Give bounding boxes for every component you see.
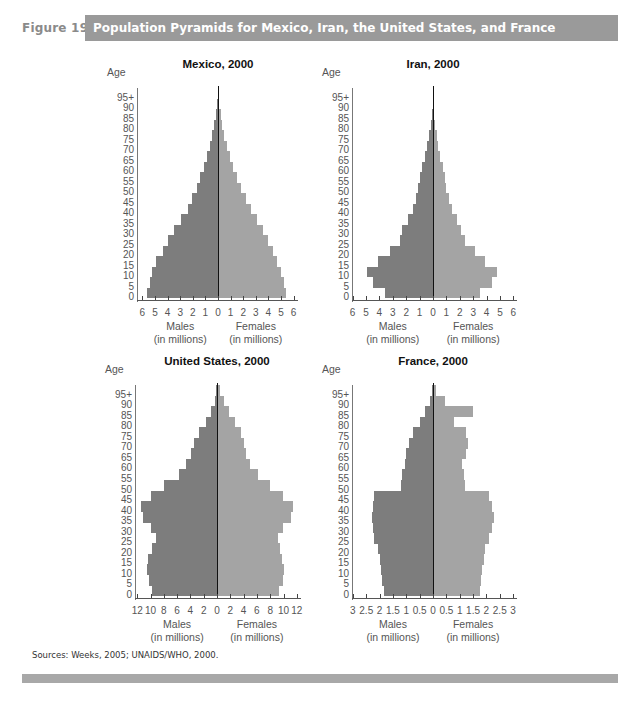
- age-axis-label: Age: [107, 66, 126, 78]
- female-bar: [218, 256, 277, 267]
- age-tick-label: 85: [321, 114, 349, 124]
- female-bar: [433, 543, 485, 554]
- age-tick-label: 80: [104, 421, 132, 431]
- x-tick-mark: [433, 296, 434, 300]
- x-tick-label: 3: [390, 307, 396, 318]
- females-axis-label: Females(in millions): [230, 618, 283, 644]
- female-bar: [217, 459, 250, 470]
- x-axis-line: [137, 300, 298, 301]
- x-tick-label: 0: [430, 307, 436, 318]
- male-bar: [156, 533, 217, 544]
- male-bar: [367, 267, 433, 278]
- male-bar: [148, 554, 217, 565]
- age-tick-label: 75: [106, 135, 134, 145]
- age-tick-label: 75: [321, 432, 349, 442]
- male-bar: [151, 491, 217, 502]
- age-tick-label: 45: [321, 495, 349, 505]
- age-tick-label: 20: [321, 548, 349, 558]
- x-tick-mark: [297, 594, 298, 598]
- x-tick-mark: [204, 594, 205, 598]
- male-bar: [374, 491, 433, 502]
- units-label: (in millions): [366, 333, 419, 346]
- female-bar: [433, 162, 443, 173]
- age-tick-label: 50: [106, 187, 134, 197]
- female-bar: [217, 522, 283, 533]
- x-tick-mark: [281, 296, 282, 300]
- x-tick-mark: [406, 594, 407, 598]
- x-tick-label: 5: [278, 307, 284, 318]
- age-tick-label: 70: [321, 442, 349, 452]
- male-bar: [186, 459, 217, 470]
- male-bar: [406, 448, 433, 459]
- x-tick-label: 1: [228, 307, 234, 318]
- x-tick-label: 2: [228, 605, 234, 616]
- male-bar: [204, 162, 218, 173]
- female-bar: [218, 235, 268, 246]
- x-tick-mark: [433, 594, 434, 598]
- male-bar: [402, 469, 433, 480]
- male-bar: [401, 480, 433, 491]
- x-tick-mark: [142, 296, 143, 300]
- female-bar: [433, 172, 445, 183]
- age-tick-label: 0: [321, 590, 349, 600]
- center-axis-line: [433, 86, 435, 300]
- age-tick-label: 70: [104, 442, 132, 452]
- female-bar: [218, 267, 281, 278]
- x-tick-label: 2: [403, 307, 409, 318]
- x-tick-label: 3: [350, 605, 356, 616]
- x-tick-label: 1: [203, 307, 209, 318]
- age-tick-label: 20: [104, 548, 132, 558]
- x-axis-line: [135, 598, 301, 599]
- age-tick-label: 80: [321, 124, 349, 134]
- males-label: Males: [366, 618, 419, 631]
- females-axis-label: Females(in millions): [447, 618, 500, 644]
- males-label: Males: [151, 618, 204, 631]
- females-axis-label: Females(in millions): [447, 320, 500, 346]
- units-label: (in millions): [154, 333, 207, 346]
- x-tick-mark: [270, 594, 271, 598]
- male-bar: [408, 214, 433, 225]
- male-bar: [384, 585, 433, 596]
- male-bar: [147, 288, 218, 299]
- x-tick-mark: [366, 594, 367, 598]
- x-tick-label: 8: [267, 605, 273, 616]
- x-tick-mark: [393, 296, 394, 300]
- male-bar: [400, 235, 434, 246]
- x-tick-label: 6: [174, 605, 180, 616]
- x-tick-mark: [406, 296, 407, 300]
- age-tick-label: 30: [106, 229, 134, 239]
- female-bar: [433, 396, 445, 407]
- male-bar: [374, 533, 433, 544]
- male-bar: [143, 512, 217, 523]
- x-tick-mark: [460, 594, 461, 598]
- male-bar: [390, 246, 433, 257]
- age-tick-label: 90: [321, 103, 349, 113]
- x-tick-label: 4: [377, 307, 383, 318]
- x-tick-label: 2: [240, 307, 246, 318]
- panel-title: France, 2000: [398, 355, 468, 367]
- x-tick-label: 4: [266, 307, 272, 318]
- age-tick-label: 0: [106, 292, 134, 302]
- female-bar: [433, 151, 440, 162]
- age-tick-label: 95+: [321, 93, 349, 103]
- female-bar: [217, 564, 284, 575]
- female-bar: [218, 225, 263, 236]
- age-tick-label: 55: [106, 177, 134, 187]
- age-tick-label: 80: [321, 421, 349, 431]
- age-axis-label: Age: [105, 363, 124, 375]
- sources-note: Sources: Weeks, 2005; UNAIDS/WHO, 2000.: [32, 650, 218, 660]
- female-bar: [218, 151, 230, 162]
- age-tick-label: 40: [321, 506, 349, 516]
- center-axis-line: [217, 383, 219, 598]
- age-tick-label: 60: [106, 166, 134, 176]
- age-tick-label: 35: [321, 219, 349, 229]
- age-tick-label: 10: [106, 271, 134, 281]
- units-label: (in millions): [447, 631, 500, 644]
- x-tick-mark: [500, 594, 501, 598]
- female-bar: [433, 459, 462, 470]
- center-axis-line: [433, 383, 435, 598]
- female-bar: [433, 183, 446, 194]
- age-tick-label: 90: [106, 103, 134, 113]
- male-bar: [418, 183, 433, 194]
- panel-title: United States, 2000: [164, 355, 269, 367]
